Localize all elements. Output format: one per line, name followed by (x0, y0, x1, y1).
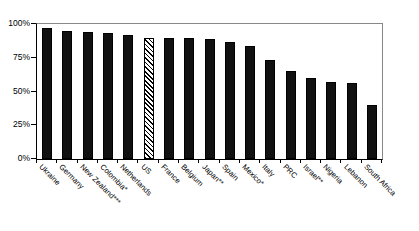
bar-lebanon (347, 83, 357, 159)
bar-slot (362, 24, 382, 159)
y-tick-label: 75% (13, 53, 30, 62)
bar-slot (281, 24, 301, 159)
bar-us (144, 38, 154, 160)
bar-slot (98, 24, 118, 159)
bar-spain (225, 42, 235, 159)
bar-slot (301, 24, 321, 159)
x-tick-label: France (160, 163, 182, 185)
y-tick-label: 50% (13, 86, 30, 95)
bar-italy (265, 60, 275, 159)
bar-slot (220, 24, 240, 159)
bar-netherlands (123, 35, 133, 159)
x-tick-label: Nigeria (322, 163, 344, 185)
bar-colombia (103, 33, 113, 159)
bar-japan (205, 39, 215, 159)
x-tick-label: Israel** (302, 163, 325, 186)
bar-slot (179, 24, 199, 159)
bar-slot (260, 24, 280, 159)
x-tick-mark (381, 159, 382, 163)
y-tick-label: 25% (13, 120, 30, 129)
bar-prc (286, 71, 296, 159)
bar-slot (159, 24, 179, 159)
bar-slot (341, 24, 361, 159)
bar-france (164, 38, 174, 160)
bar-israel (306, 78, 316, 159)
y-axis-labels: 0%25%50%75%100% (0, 0, 34, 231)
bar-slot (118, 24, 138, 159)
x-tick-label: PRC (281, 163, 298, 180)
bar-southafrica (367, 105, 377, 159)
x-tick-label: US (139, 163, 152, 176)
bar-belgium (184, 38, 194, 160)
x-tick-label: South Africa (362, 163, 396, 197)
bar-slot (199, 24, 219, 159)
bar-slot (78, 24, 98, 159)
x-axis-labels: UkraineGermanyNew Zealand***Colombia*Net… (36, 163, 381, 231)
y-tick-label: 100% (8, 19, 30, 28)
bars-container (37, 24, 382, 159)
x-tick-label: Italy (261, 163, 276, 178)
bar-slot (321, 24, 341, 159)
bar-chart: 0%25%50%75%100% UkraineGermanyNew Zealan… (0, 0, 419, 231)
bar-newzealand (83, 32, 93, 159)
y-tick-label: 0% (18, 154, 30, 163)
bar-slot (138, 24, 158, 159)
bar-mexico (245, 46, 255, 159)
plot-area (36, 23, 383, 160)
bar-germany (62, 31, 72, 159)
bar-slot (240, 24, 260, 159)
bar-ukraine (42, 28, 52, 159)
bar-nigeria (326, 82, 336, 159)
bar-slot (57, 24, 77, 159)
bar-slot (37, 24, 57, 159)
